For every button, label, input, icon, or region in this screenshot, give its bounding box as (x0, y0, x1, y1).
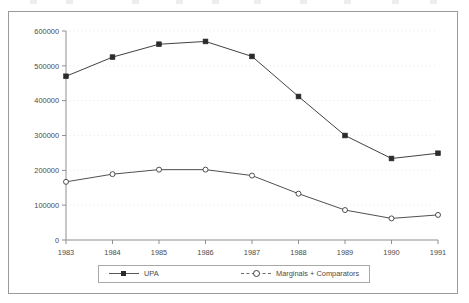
open-circle-marker-icon (253, 270, 260, 277)
data-point (64, 74, 69, 79)
y-tick-label: 600000 (34, 27, 59, 36)
y-axis (62, 31, 66, 240)
legend-sample-marginals (241, 269, 271, 279)
data-point (389, 216, 394, 221)
legend-label-marginals: Marginals + Comparators (276, 269, 359, 279)
data-point (343, 208, 348, 213)
y-tick-label: 500000 (34, 62, 59, 71)
data-point (250, 54, 255, 59)
x-tick-label: 1989 (337, 248, 353, 257)
series-marginals-comparators (64, 167, 441, 221)
filled-square-marker-icon (121, 271, 126, 276)
data-point (343, 133, 348, 138)
data-point (203, 39, 208, 44)
plot-area: 0100000200000300000400000500000600000 19… (0, 0, 469, 303)
data-series-layer (64, 39, 441, 221)
x-tick-label: 1985 (151, 248, 167, 257)
y-tick-label: 200000 (34, 166, 59, 175)
y-tick-labels: 0100000200000300000400000500000600000 (34, 27, 59, 245)
y-tick-label: 100000 (34, 201, 59, 210)
x-tick-label: 1984 (104, 248, 120, 257)
data-point (203, 167, 208, 172)
data-point (110, 172, 115, 177)
legend-sample-upa (109, 269, 139, 279)
x-tick-label: 1983 (58, 248, 74, 257)
data-point (436, 212, 441, 217)
data-point (436, 151, 441, 156)
line-chart-svg: 0100000200000300000400000500000600000 19… (0, 0, 469, 303)
x-tick-label: 1990 (383, 248, 399, 257)
data-point (64, 179, 69, 184)
legend-label-upa: UPA (144, 269, 159, 279)
data-point (157, 42, 162, 47)
x-tick-label: 1987 (244, 248, 260, 257)
x-tick-label: 1988 (290, 248, 306, 257)
y-tick-label: 400000 (34, 96, 59, 105)
x-tick-label: 1991 (430, 248, 446, 257)
chart-page: 0100000200000300000400000500000600000 19… (0, 0, 469, 303)
data-point (389, 156, 394, 161)
data-point (296, 191, 301, 196)
data-point (110, 55, 115, 60)
x-tick-label: 1986 (197, 248, 213, 257)
legend-entry-upa[interactable]: UPA (109, 266, 159, 282)
data-point (296, 94, 301, 99)
series-upa (64, 39, 441, 161)
x-axis (66, 240, 438, 244)
data-point (250, 173, 255, 178)
x-tick-labels: 198319841985198619871988198919901991 (58, 248, 446, 257)
legend-entry-marginals[interactable]: Marginals + Comparators (241, 266, 359, 282)
y-tick-label: 0 (55, 236, 59, 245)
chart-legend: UPA Marginals + Comparators (98, 265, 370, 283)
y-tick-label: 300000 (34, 131, 59, 140)
data-point (157, 167, 162, 172)
